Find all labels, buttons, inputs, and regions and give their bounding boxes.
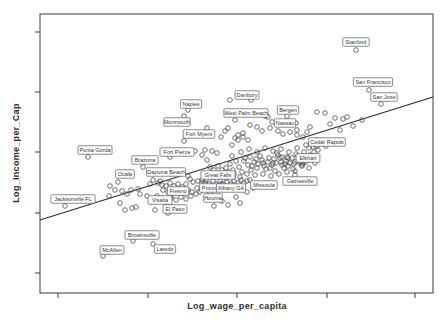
data-point (295, 146, 300, 151)
city-label: San Jose (373, 94, 396, 100)
data-point (226, 203, 231, 208)
data-point (230, 143, 235, 148)
data-point (248, 123, 253, 128)
data-point (287, 150, 292, 155)
data-point (228, 162, 233, 167)
data-point (237, 165, 242, 170)
city-label: Cedar Rapids (310, 139, 344, 145)
data-point (138, 192, 143, 197)
data-point (295, 128, 300, 133)
city-label: Jacksonville FL (54, 196, 92, 202)
data-point-labeled (367, 88, 372, 93)
city-label: McAllen (102, 247, 122, 253)
data-point (223, 129, 228, 134)
city-label: Brownsville (128, 232, 156, 238)
data-point (238, 175, 243, 180)
data-point (238, 201, 243, 206)
city-label: Provo (202, 185, 216, 191)
data-point (113, 188, 118, 193)
data-point (247, 147, 252, 152)
city-label: Bergen (279, 107, 297, 113)
data-point (273, 169, 278, 174)
data-point (307, 166, 312, 171)
data-point (253, 173, 258, 178)
data-point (118, 201, 123, 206)
x-axis-title: Log_wage_per_capita (187, 301, 287, 311)
data-point (107, 194, 112, 199)
data-point (234, 159, 239, 164)
data-point (333, 116, 338, 121)
city-label: Visalia (152, 197, 169, 203)
data-point-labeled (354, 48, 359, 53)
data-point (315, 110, 320, 115)
data-point (242, 159, 247, 164)
data-point-labeled (182, 139, 187, 144)
data-point (195, 186, 200, 191)
data-point (212, 204, 217, 209)
data-point-labeled (116, 180, 121, 185)
city-label: Laredo (156, 246, 173, 252)
y-axis-title: Log_Income_per_Cap (11, 103, 21, 202)
data-point (108, 184, 113, 189)
scatter-plot-figure: StanfordSan FranciscoSan JoseDanburyNapl… (0, 0, 447, 328)
data-point (153, 208, 158, 213)
data-point (288, 130, 293, 135)
city-label: San Francisco (355, 79, 390, 85)
data-point (205, 158, 210, 163)
data-point (176, 182, 181, 187)
data-point-labeled (141, 165, 146, 170)
city-label: Gainesville (287, 178, 314, 184)
data-point (261, 161, 266, 166)
data-point (341, 117, 346, 122)
data-point (245, 172, 250, 177)
city-label: Punta Gorda (79, 147, 111, 153)
city-label: El Paso (166, 206, 185, 212)
city-label: West Palm Beach (224, 110, 268, 116)
data-point (240, 170, 245, 175)
data-point-labeled (379, 102, 384, 107)
data-point (277, 172, 282, 177)
city-label: Nassau (276, 120, 295, 126)
data-point (328, 122, 333, 127)
city-label: Fresno (169, 188, 186, 194)
data-point (270, 120, 275, 125)
data-point (200, 153, 205, 158)
scatter-plot-canvas: StanfordSan FranciscoSan JoseDanburyNapl… (0, 0, 447, 328)
city-label: Houma (204, 195, 223, 201)
data-point (269, 174, 274, 179)
city-label: Stanford (346, 39, 367, 45)
city-label: Monmouth (164, 119, 190, 125)
data-point (260, 158, 265, 163)
data-point (268, 126, 273, 131)
data-point (308, 125, 313, 130)
data-point (215, 151, 220, 156)
data-point (261, 172, 266, 177)
data-point-labeled (151, 178, 156, 183)
data-point (239, 150, 244, 155)
data-point (279, 147, 284, 152)
city-label: Elkhart (299, 155, 317, 161)
data-point (260, 129, 265, 134)
data-point (276, 129, 281, 134)
city-label: Albany GA (218, 185, 245, 191)
data-point (285, 170, 290, 175)
data-point (304, 143, 309, 148)
data-point (161, 188, 166, 193)
city-label: Missoula (253, 182, 276, 188)
data-point (323, 111, 328, 116)
data-point (191, 180, 196, 185)
data-point (168, 181, 173, 186)
data-point (248, 155, 253, 160)
data-point (203, 148, 208, 153)
data-point (123, 208, 128, 213)
city-label: Daytona Beach (147, 169, 185, 175)
data-point-labeled (63, 204, 68, 209)
city-label: Danbury (237, 92, 258, 98)
data-point (174, 198, 179, 203)
city-label: Fort Myers (186, 131, 213, 137)
city-label: Great Falls (205, 172, 232, 178)
data-point (233, 118, 238, 123)
data-point (184, 182, 189, 187)
data-point (210, 149, 215, 154)
data-point (120, 189, 125, 194)
